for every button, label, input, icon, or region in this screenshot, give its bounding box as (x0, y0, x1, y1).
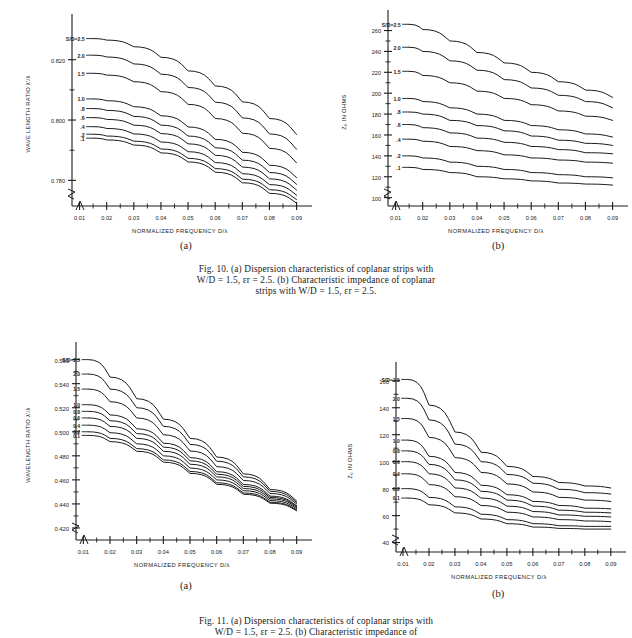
x-tick-label: 0.09 (291, 549, 302, 555)
curve-label: 1.5 (393, 69, 400, 75)
x-tick-label: 0.03 (131, 549, 142, 555)
y-tick-label: 0.540 (54, 382, 69, 388)
curve-label: 0.6 (393, 459, 400, 465)
x-tick-label: 0.01 (390, 215, 401, 221)
y-tick-label: 260 (372, 28, 381, 34)
curve-label: 2.0 (393, 396, 400, 402)
y-tick-label: 160 (372, 133, 381, 139)
y-tick-label: 0.780 (51, 178, 65, 184)
caption-figure-11: Fig. 11. (a) Dispersion characteristics … (96, 616, 536, 638)
caption-line-2: W/D = 1.5, εr = 2.5. (b) Characteristic … (96, 275, 536, 286)
x-tick-label: 0.07 (237, 215, 248, 221)
caption-line-1: Fig. 10. (a) Dispersion characteristics … (199, 264, 434, 274)
y-axis-label: Z₀ IN OHMS (341, 94, 347, 129)
curve-label: 1.5 (77, 71, 84, 77)
data-curve (89, 432, 297, 510)
y-tick-label: 180 (372, 112, 381, 118)
x-tick-label: 0.03 (444, 215, 455, 221)
x-tick-label: 0.03 (449, 561, 460, 567)
chart-fig11a: 0.4200.4400.4600.4800.5000.5200.5400.560… (14, 330, 314, 588)
y-tick-label: 220 (372, 70, 381, 76)
curve-label: 1.5 (393, 416, 400, 422)
chart-fig10a: 0.7800.8000.8200.010.020.030.040.050.060… (14, 4, 314, 254)
curve-label: .2 (396, 153, 400, 159)
curve-label: 1.0 (393, 96, 400, 102)
x-tick-label: 0.07 (553, 561, 564, 567)
y-tick-label: 140 (372, 154, 381, 160)
y-tick-label: 100 (379, 460, 389, 466)
y-tick-label: 200 (372, 91, 381, 97)
data-curve (409, 112, 612, 145)
x-tick-label: 0.08 (579, 561, 590, 567)
curve-label: 1.5 (73, 386, 80, 392)
x-tick-label: 0.05 (183, 215, 194, 221)
y-axis-break-icon (392, 535, 399, 545)
data-curve (89, 405, 297, 506)
y-axis-label: Z₀ IN OHMS (347, 443, 353, 478)
y-tick-label: 0.800 (51, 118, 65, 124)
figure-page: 0.7800.8000.8200.010.020.030.040.050.060… (0, 0, 632, 638)
panel-letter-a: (a) (180, 580, 192, 591)
x-tick-label: 0.02 (104, 549, 115, 555)
data-curve (408, 398, 611, 494)
data-curve (93, 138, 296, 203)
figure-10: 0.7800.8000.8200.010.020.030.040.050.060… (0, 0, 632, 258)
curve-label: .6 (80, 115, 84, 121)
x-tick-label: 0.01 (74, 215, 85, 221)
x-tick-label: 0.09 (605, 561, 616, 567)
curve-label: 1.0 (77, 96, 84, 102)
y-tick-label: 140 (379, 406, 389, 412)
y-tick-label: 120 (379, 433, 389, 439)
y-tick-label: 120 (372, 175, 381, 181)
x-tick-label: 0.03 (128, 215, 139, 221)
x-tick-label: 0.04 (475, 561, 487, 567)
x-tick-label: 0.06 (211, 549, 222, 555)
x-tick-label: 0.05 (501, 561, 512, 567)
y-tick-label: 80 (383, 487, 389, 493)
data-curve (408, 451, 611, 513)
y-tick-label: 0.420 (54, 526, 69, 532)
x-axis-label: NORMALIZED FREQUENCY D/λ (132, 228, 228, 234)
curve-label: .4 (396, 137, 400, 143)
data-curve (89, 360, 297, 501)
x-tick-label: 0.02 (417, 215, 428, 221)
data-curve (409, 156, 612, 178)
chart-fig11b: 4060801001201401600.010.020.030.040.050.… (330, 350, 630, 600)
curve-label: 0.8 (73, 409, 80, 415)
x-tick-label: 0.08 (264, 215, 275, 221)
y-tick-label: 40 (383, 540, 389, 546)
panel-letter-b: (b) (492, 240, 504, 251)
data-curve (93, 73, 296, 163)
curve-label: .4 (80, 124, 84, 130)
y-tick-label: 0.500 (54, 430, 69, 436)
curve-label: 0.1 (73, 433, 80, 439)
curve-label: 0.2 (393, 486, 400, 492)
x-tick-label: 0.05 (184, 549, 195, 555)
curve-label: 2.0 (77, 53, 84, 59)
y-tick-label: 60 (383, 514, 389, 520)
curve-label: 0.4 (73, 423, 80, 429)
curve-label: S/D=2.5 (382, 22, 401, 28)
curve-label: .1 (396, 165, 400, 171)
panel-letter-a: (a) (180, 240, 192, 251)
y-tick-label: 100 (372, 196, 381, 202)
curve-label: 0.4 (393, 471, 400, 477)
x-tick-label: 0.09 (291, 215, 302, 221)
caption-line-2: W/D = 1.5, εr = 2.5. (b) Characteristic … (96, 627, 536, 638)
caption-line-1: Fig. 11. (a) Dispersion characteristics … (199, 616, 433, 626)
x-tick-label: 0.02 (101, 215, 112, 221)
curve-label: 1.0 (393, 438, 400, 444)
y-tick-label: 0.440 (54, 502, 69, 508)
x-axis-label: NORMALIZED FREQUENCY D/λ (448, 228, 544, 234)
caption-figure-10: Fig. 10. (a) Dispersion characteristics … (96, 264, 536, 298)
data-curve (408, 498, 611, 529)
x-tick-label: 0.01 (397, 561, 408, 567)
data-curve (93, 109, 296, 185)
data-curve (409, 71, 612, 120)
x-tick-label: 0.07 (238, 549, 249, 555)
curve-label: 2.0 (393, 45, 400, 51)
curve-label: 0.1 (393, 495, 400, 501)
x-tick-label: 0.05 (499, 215, 510, 221)
curve-label: .8 (396, 109, 400, 115)
panel-letter-b: (b) (492, 588, 504, 599)
